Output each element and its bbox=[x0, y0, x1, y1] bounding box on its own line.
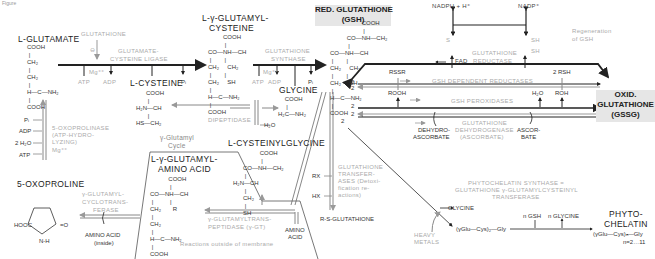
enzyme-gr-line2: REDUCTASE bbox=[473, 58, 512, 65]
cysteinylglycine-label: L-CYSTEINYLGLYCINE bbox=[228, 138, 325, 148]
enzyme-oxoprolinase-line3: LYZING) bbox=[52, 139, 77, 146]
n-glycine-label: n GLYCINE bbox=[548, 213, 579, 219]
gsh-structure: COOH | CO—NH—CH₂ | CO—NH—CH | | CH₂ CH₂ … bbox=[330, 20, 387, 118]
enzyme-gs-line1: GLUTATHIONE bbox=[265, 48, 310, 55]
dehydroascorbate-line2: ASCORBATE bbox=[413, 134, 450, 140]
h2o-label: H₂O bbox=[532, 90, 543, 96]
gamma-glutamyl-amino-acid-line1: L-γ-GLUTAMYL- bbox=[151, 154, 218, 164]
nadp-label: NADP⁺ bbox=[518, 3, 539, 10]
enzyme-dhar-line1: GLUTATHIONE bbox=[462, 120, 507, 127]
ascorbate-line1: ASCOR- bbox=[517, 127, 540, 133]
rx-label: RX bbox=[312, 173, 320, 179]
phytochelatin-line1: PHYTO- bbox=[609, 209, 643, 219]
glycine-structure: COOH | H₂C—NH₂ bbox=[278, 96, 306, 119]
enzyme-gst-line5: actions) bbox=[338, 192, 361, 199]
two-rsh-label: 2 RSH bbox=[553, 69, 571, 75]
enzyme-dhar-line2: DEHYDROGENASE bbox=[455, 127, 514, 134]
inhibit-icon: ⊖ bbox=[90, 47, 95, 54]
phytochelatin-range: n=2…11 bbox=[623, 239, 645, 245]
disulfide-s-label: S bbox=[446, 37, 450, 44]
heavy-metals-line2: METALS bbox=[414, 239, 439, 246]
enzyme-cyclotransferase-line1: γ-GLUTAMYL- bbox=[82, 191, 124, 198]
enzyme-pcs-line1: PHYTOCHELATIN SYNTHASE = bbox=[468, 180, 564, 187]
enzyme-pcs-line2: GLUTATHIONE γ-GLUTAMYLCYSTEINYL bbox=[455, 187, 578, 194]
h2o-dipeptidase: H₂O bbox=[264, 122, 275, 128]
glutamate-structure: COOH | CH₂ | CH₂ | H—C—NH₂ | COOH bbox=[27, 44, 59, 112]
amino-acid-inside-line2: (inside) bbox=[94, 240, 114, 246]
stoich-2c: 2 bbox=[351, 103, 354, 109]
oxoproline-nh: N-H bbox=[39, 238, 50, 244]
pi-oxoprolinase: Pᵢ bbox=[24, 117, 29, 123]
glycine-release-label: GLYCINE bbox=[448, 205, 474, 211]
outside-membrane-note: Reactions outside of membrane bbox=[180, 241, 273, 248]
hx-label: HX bbox=[312, 193, 320, 199]
enzyme-oxoprolinase-line1: 5-OXOPROLINASE bbox=[52, 125, 109, 132]
intermediate-formula: (γGlu—Cys)₂—Gly bbox=[456, 226, 506, 232]
amino-acid-outside-line1: AMINO bbox=[285, 227, 305, 233]
n-gsh-label: n GSH bbox=[523, 213, 541, 219]
oxoproline-label: 5-OXOPROLINE bbox=[17, 179, 84, 189]
stoich-2d: 2 bbox=[351, 111, 354, 117]
glutathione-inhibitor-label: GLUTATHIONE bbox=[81, 31, 126, 38]
gamma-glutamylcysteine-structure: COOH | CO—NH—CH | | CH₂ CH₂ | | CH₂ SH |… bbox=[208, 34, 246, 117]
amino-acid-inside-line1: AMINO ACID bbox=[85, 232, 120, 238]
enzyme-gcl-line2: CYSTEINE LIGASE bbox=[110, 56, 168, 63]
stoich-2b: 2 bbox=[351, 85, 354, 91]
rssr-label: RSSR bbox=[389, 69, 406, 75]
cysteine-label: L-CYSTEINE bbox=[130, 78, 183, 88]
gssg-label-line1: OXID. bbox=[596, 90, 655, 100]
dehydroascorbate-line1: DEHYDRO- bbox=[418, 127, 450, 133]
enzyme-oxoprolinase-line4: Mg⁺⁺ bbox=[52, 147, 68, 154]
enzyme-gst-line2: TRANSFER- bbox=[338, 171, 375, 178]
atp-label-2: ATP bbox=[252, 79, 264, 86]
dithiol-sh-label: SH bbox=[531, 37, 540, 44]
roh-label: ROH bbox=[555, 90, 568, 96]
gssg-label-line2: GLUTATHIONE bbox=[596, 100, 655, 110]
cysteine-structure: COOH | H₂N—CH | HS—CH₂ bbox=[136, 90, 164, 128]
gssg-label-line3: (GSSG) bbox=[596, 110, 655, 120]
ascorbate-line2: BATE bbox=[521, 134, 536, 140]
enzyme-pcs-line3: TRANSFERASE bbox=[492, 194, 540, 201]
dithiol-sh-label-2: SH bbox=[531, 48, 540, 55]
enzyme-dipeptidase: DIPEPTIDASE bbox=[208, 117, 251, 124]
enzyme-cyclotransferase-line3: FERASE bbox=[93, 207, 119, 214]
gamma-glutamylcysteine-line1: L-γ-GLUTAMYL- bbox=[202, 13, 269, 23]
enzyme-gst-line4: fication re- bbox=[338, 185, 370, 192]
glutamate-label: L-GLUTAMATE bbox=[18, 34, 80, 44]
enzyme-gst-line3: ASES (Detoxi- bbox=[338, 178, 381, 185]
mg-label: Mg⁺⁺ bbox=[89, 69, 105, 76]
phytochelatin-formula: (γGlu—Cys)ₙ—Gly bbox=[593, 230, 643, 237]
gssg-box: OXID. GLUTATHIONE (GSSG) bbox=[596, 90, 655, 122]
mg-label-2: Mg⁺⁺ bbox=[263, 69, 279, 76]
glycine-label: GLYCINE bbox=[279, 85, 318, 95]
rooh-label: ROOH bbox=[388, 90, 406, 96]
enzyme-gs-line2: SYNTHASE bbox=[271, 56, 306, 63]
atp-oxoprolinase: ATP bbox=[19, 152, 30, 158]
oxoproline-oxo: =O bbox=[60, 222, 68, 228]
enzyme-ggt-line2: PEPTIDASE (γ-GT) bbox=[208, 224, 265, 231]
gamma-glutamyl-amino-acid-line2: AMINO ACID bbox=[158, 164, 211, 174]
figure-label: Figure bbox=[2, 0, 16, 6]
rs-glutathione-label: R-S-GLUTATHIONE bbox=[320, 216, 374, 222]
atp-label: ATP bbox=[78, 79, 90, 86]
heavy-metals-line1: HEAVY bbox=[414, 232, 435, 239]
regeneration-line2: of GSH bbox=[572, 36, 593, 43]
oxoproline-hooc: HOOC bbox=[14, 222, 32, 228]
two-h2o-oxoprolinase: 2 H₂O bbox=[15, 140, 31, 146]
enzyme-cyclotransferase-line2: CYCLOTRANS- bbox=[82, 199, 128, 206]
nadph-label: NADPH + H⁺ bbox=[432, 3, 470, 10]
pi-label-2: Pᵢ bbox=[308, 79, 313, 85]
gamma-glutamylcysteine-line2: CYSTEINE bbox=[209, 23, 254, 33]
stoich-2e: 2 bbox=[341, 118, 344, 124]
fad-label: FAD bbox=[455, 58, 468, 65]
enzyme-dhar-line3: (ASCORBATE) bbox=[460, 134, 504, 141]
enzyme-gcl-line1: GLUTAMATE- bbox=[118, 48, 159, 55]
amino-acid-outside-line2: ACID bbox=[288, 234, 302, 240]
cycle-line2: Cycle bbox=[168, 142, 186, 149]
regeneration-line1: Regeneration bbox=[572, 28, 612, 35]
cysteinylglycine-structure: COOH | CO—NH—CH₂ | H₂N—CH | CH₂ | SH bbox=[233, 150, 284, 218]
enzyme-gpx: GSH PEROXIDASES bbox=[451, 98, 513, 105]
enzyme-gst-line1: GLUTATHIONE bbox=[338, 164, 383, 171]
adp-oxoprolinase: ADP bbox=[19, 128, 31, 134]
phytochelatin-line2: CHELATIN bbox=[604, 219, 648, 229]
